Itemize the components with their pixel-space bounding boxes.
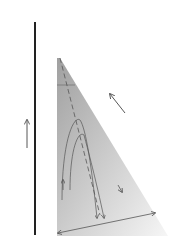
diagram-canvas	[0, 0, 178, 248]
upper-velocity-arrow	[110, 94, 125, 113]
wedge-diagram	[0, 0, 178, 248]
